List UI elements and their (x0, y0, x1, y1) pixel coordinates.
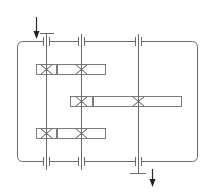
gear-row-3 (37, 124, 106, 143)
bearing-top-shaft-2 (78, 34, 85, 48)
gear-row-1 (37, 60, 106, 79)
gear-2b (94, 97, 182, 107)
gearbox-diagram (0, 0, 213, 196)
bearing-bottom-shaft-1 (43, 152, 50, 170)
bearing-top-shaft-1 (43, 34, 50, 48)
output-arrow-icon (150, 179, 156, 187)
input-arrow-icon (34, 31, 40, 39)
gear-row-2 (71, 92, 182, 111)
output-shaft-end (130, 169, 156, 187)
bearing-top-shaft-3 (135, 34, 142, 48)
input-shaft-end (34, 17, 55, 39)
bearing-bottom-shaft-3 (135, 152, 142, 173)
bearing-bottom-shaft-2 (78, 152, 85, 170)
